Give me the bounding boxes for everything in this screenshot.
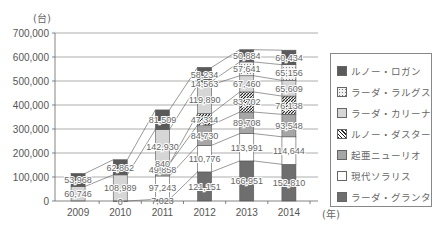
y-tick-label: 300,000: [13, 124, 50, 135]
value-label: 89,708: [233, 118, 261, 128]
legend-swatch-icon: [337, 87, 347, 97]
value-label: 53,968: [64, 175, 92, 185]
x-axis: 200920102011201220132014: [55, 201, 318, 218]
value-label: 60,746: [64, 189, 92, 199]
legend-swatch-icon: [337, 66, 347, 76]
legend-label: 起亜ニューリオ: [351, 148, 421, 162]
value-label: 14,563: [191, 79, 219, 89]
legend-item: ラーダ・カリーナ: [337, 102, 431, 123]
legend-label: ラーダ・カリーナ: [351, 106, 431, 120]
y-tick-label: 200,000: [13, 148, 50, 159]
x-tick-label: 2014: [278, 207, 301, 218]
value-label: 119,890: [189, 95, 221, 105]
value-label: 840: [155, 159, 170, 169]
legend-item: 現代ソラリス: [337, 165, 431, 186]
y-tick-label: 600,000: [13, 52, 50, 63]
value-label: 166,951: [230, 176, 263, 186]
x-tick-label: 2012: [193, 207, 216, 218]
x-tick-label: 2013: [236, 207, 259, 218]
y-tick-label: 0: [43, 196, 49, 207]
x-tick-label: 2010: [109, 207, 132, 218]
value-label: 67,460: [233, 79, 261, 89]
value-label: 81,509: [149, 115, 177, 125]
value-label: 142,930: [146, 142, 179, 152]
value-label: 93,548: [275, 121, 303, 131]
value-label: 84,730: [191, 131, 219, 141]
value-label: 152,810: [273, 178, 306, 188]
legend-item: 起亜ニューリオ: [337, 144, 431, 165]
value-label: 65,156: [275, 68, 303, 78]
legend-label: ルノー・ダスター: [351, 127, 431, 141]
legend-item: ラーダ・グランタ: [337, 186, 431, 207]
legend-item: ルノー・ダスター: [337, 123, 431, 144]
value-label: 113,991: [231, 143, 263, 153]
value-label: 0: [118, 197, 123, 207]
value-label: 47,344: [191, 115, 219, 125]
value-label: 110,776: [189, 154, 221, 164]
y-tick-label: 400,000: [13, 100, 50, 111]
value-label: 108,989: [104, 183, 137, 193]
value-label: 121,151: [188, 182, 221, 192]
y-tick-label: 700,000: [13, 28, 50, 39]
value-label: 83,702: [233, 97, 261, 107]
legend-label: 現代ソラリス: [351, 169, 411, 183]
legend-swatch-icon: [337, 129, 347, 139]
value-label: 76,138: [275, 101, 303, 111]
x-tick-label: 2011: [152, 207, 174, 218]
value-label: 57,641: [233, 64, 261, 74]
legend-item: ルノー・ロガン: [337, 60, 431, 81]
legend: ルノー・ロガンラーダ・ラルグスラーダ・カリーナルノー・ダスター起亜ニューリオ現代…: [330, 53, 432, 207]
legend-swatch-icon: [337, 150, 347, 160]
legend-swatch-icon: [337, 171, 347, 181]
value-label: 60,434: [275, 53, 303, 63]
value-label: 62,862: [106, 163, 134, 173]
value-label: 58,234: [191, 70, 219, 80]
legend-swatch-icon: [337, 192, 347, 202]
y-tick-label: 500,000: [13, 76, 50, 87]
value-label: 65,609: [275, 84, 303, 94]
y-axis: 0100,000200,000300,000400,000500,000600,…: [13, 28, 55, 207]
legend-label: ラーダ・グランタ: [351, 190, 431, 204]
value-label: 97,243: [149, 183, 177, 193]
y-tick-label: 100,000: [13, 172, 50, 183]
legend-label: ルノー・ロガン: [351, 64, 421, 78]
x-tick-label: 2009: [67, 207, 90, 218]
value-label: 114,644: [273, 146, 305, 156]
legend-swatch-icon: [337, 108, 347, 118]
value-label: 50,884: [233, 51, 261, 61]
legend-item: ラーダ・ラルグス: [337, 81, 431, 102]
legend-label: ラーダ・ラルグス: [351, 85, 431, 99]
